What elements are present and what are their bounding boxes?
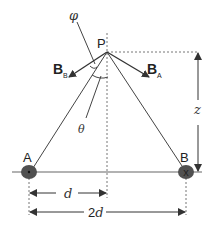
vector-ba-main: B bbox=[147, 61, 157, 77]
line-p-to-a bbox=[33, 52, 107, 168]
theta-label: θ bbox=[78, 123, 85, 136]
diagram-canvas: x φ P B B B A θ z A B d 2d bbox=[0, 0, 215, 228]
theta-angle-arc bbox=[92, 75, 108, 78]
point-a-label: A bbox=[23, 150, 32, 165]
vector-ba-sub: A bbox=[157, 72, 162, 79]
wire-a-dot-icon bbox=[28, 171, 30, 173]
wire-b-cross-icon: x bbox=[183, 166, 189, 178]
vector-bb-main: B bbox=[53, 61, 63, 77]
vector-bb-sub: B bbox=[63, 72, 68, 79]
2d-label-prefix: 2 bbox=[88, 205, 95, 220]
phi-label: φ bbox=[69, 8, 79, 23]
point-p-label: P bbox=[97, 36, 106, 51]
phi-angle-arc bbox=[90, 66, 97, 68]
line-p-to-b bbox=[107, 52, 182, 166]
2d-label-var: d bbox=[95, 205, 103, 220]
2d-label: 2d bbox=[88, 205, 104, 220]
vector-bb-arrow bbox=[69, 52, 107, 77]
point-b-label: B bbox=[180, 150, 189, 165]
d-label: d bbox=[64, 186, 72, 201]
vector-ba-arrow bbox=[107, 52, 149, 77]
z-label: z bbox=[193, 102, 201, 117]
phi-line bbox=[77, 22, 95, 64]
